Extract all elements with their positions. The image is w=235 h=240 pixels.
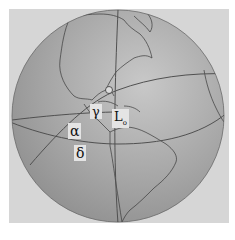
label-delta: δ — [74, 145, 86, 161]
label-L-subscript: o — [123, 119, 127, 127]
label-alpha: α — [68, 123, 81, 139]
label-L: Lo — [112, 109, 129, 128]
label-gamma: γ — [90, 104, 102, 119]
label-L-main: L — [114, 109, 123, 124]
vernal-point-marker — [106, 87, 113, 94]
